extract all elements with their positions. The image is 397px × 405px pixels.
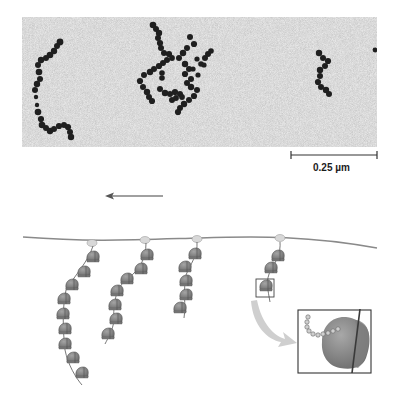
inset-ribosome-detail [298, 309, 371, 373]
electron-micrograph [22, 17, 377, 147]
polypeptide-chain-2 [102, 243, 153, 344]
polypeptide-chain-3 [174, 242, 201, 318]
polypeptide-chain-1 [57, 246, 99, 385]
polyribosome-diagram [0, 180, 397, 405]
scale-bar-label: 0.25 µm [313, 162, 350, 173]
scale-bar [290, 150, 378, 160]
zoom-arrow [251, 300, 297, 347]
direction-arrow-left [105, 193, 163, 200]
polypeptide-chain-4 [260, 242, 284, 302]
